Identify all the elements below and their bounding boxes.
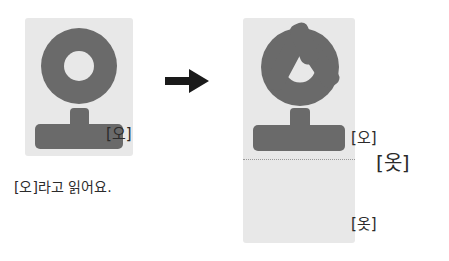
arrow-right-icon: [163, 68, 211, 94]
o-vowel-bar-right: [253, 125, 345, 151]
syllable-card-right: [243, 18, 355, 243]
label-right-top-syllable: [오]: [351, 126, 377, 147]
label-right-bottom-syllable: [옷]: [351, 212, 377, 233]
syllable-divider-line: [243, 159, 355, 160]
label-right-result-syllable: [옷]: [376, 147, 410, 176]
caption-left-reading: [오]라고 읽어요.: [14, 176, 112, 196]
label-left-syllable: [오]: [106, 122, 132, 143]
ieung-consonant-glyph-left: [41, 28, 117, 104]
